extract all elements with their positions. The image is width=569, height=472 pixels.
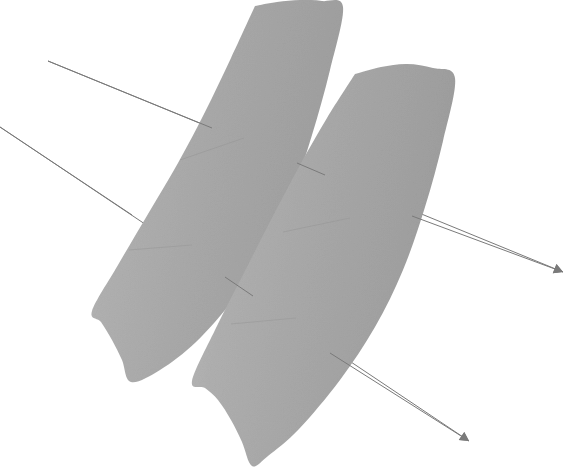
figure-svg xyxy=(0,0,569,472)
figure-canvas xyxy=(0,0,569,472)
